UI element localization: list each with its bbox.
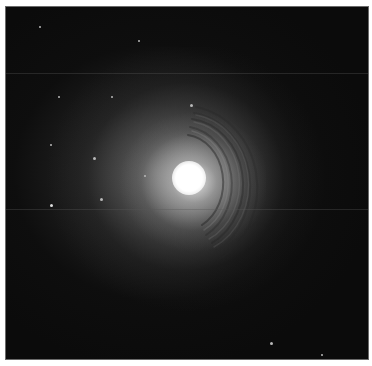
star	[93, 157, 96, 160]
star	[144, 175, 146, 177]
galaxy-core	[172, 161, 206, 195]
star	[50, 204, 53, 207]
star	[50, 144, 52, 146]
scan-artifact	[6, 73, 369, 74]
scan-artifact	[6, 209, 369, 210]
star	[58, 96, 60, 98]
galaxy-image	[5, 6, 369, 360]
star	[270, 342, 273, 345]
star	[138, 40, 140, 42]
star	[39, 26, 41, 28]
star	[190, 104, 193, 107]
star	[321, 354, 323, 356]
star	[100, 198, 103, 201]
star	[111, 96, 113, 98]
